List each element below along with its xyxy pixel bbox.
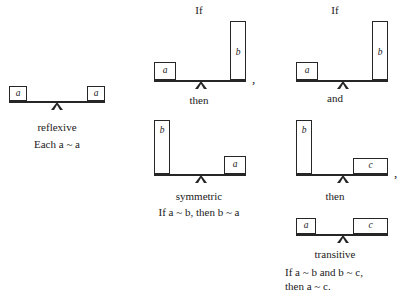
transitive-premise-2-scale: b c ,	[275, 112, 409, 180]
fulcrum-inner-icon	[340, 84, 346, 89]
weight-box-label: b	[155, 126, 169, 136]
fulcrum-inner-icon	[54, 105, 60, 110]
symmetric-panel: If a b , then b a	[140, 0, 270, 230]
transitive-and-label: and	[275, 92, 395, 105]
fulcrum-inner-icon	[340, 178, 346, 183]
transitive-statement-line-1: If a ~ b and b ~ c,	[285, 265, 409, 279]
reflexive-panel: a a reflexive Each a ~ a	[0, 80, 140, 170]
symmetric-conclusion-scale: b a	[140, 112, 270, 180]
fulcrum-inner-icon	[340, 238, 346, 243]
weight-box-right: c	[353, 158, 388, 174]
weight-box-right: c	[353, 218, 388, 234]
weight-box-label: a	[155, 66, 175, 76]
weight-box-left: b	[154, 120, 170, 174]
transitive-conclusion-scale: a c	[275, 208, 409, 244]
symmetric-name-label: symmetric	[140, 189, 258, 203]
weight-box-left: a	[154, 62, 176, 80]
weight-box-right: b	[372, 21, 388, 80]
reflexive-scale: a a	[0, 80, 120, 110]
fulcrum-inner-icon	[198, 84, 204, 89]
weight-box-label: b	[373, 48, 387, 58]
weight-box-label: c	[354, 161, 387, 171]
weight-box-label: b	[297, 126, 311, 136]
symmetric-premise-comma: ,	[252, 72, 255, 85]
weight-box-label: b	[231, 48, 245, 58]
reflexive-statement: Each a ~ a	[0, 137, 114, 151]
weight-box-right: b	[230, 21, 246, 80]
transitive-statement-line-2: then a ~ c.	[285, 279, 409, 293]
weight-box-label: a	[10, 89, 26, 99]
transitive-panel: If a b and b c ,	[275, 0, 409, 300]
transitive-premise-1-scale: a b	[275, 14, 409, 84]
fulcrum-inner-icon	[198, 178, 204, 183]
transitive-premise-2-comma: ,	[394, 166, 397, 179]
symmetric-then-label: then	[140, 94, 258, 107]
weight-box-right: a	[87, 86, 105, 101]
symmetric-premise-scale: a b ,	[140, 14, 270, 84]
weight-box-label: a	[297, 66, 317, 76]
transitive-name-label: transitive	[275, 247, 395, 261]
equivalence-relation-figure: a a reflexive Each a ~ a If a b , then	[0, 0, 409, 300]
weight-box-left: a	[296, 62, 318, 80]
weight-box-left: a	[296, 218, 316, 234]
weight-box-left: a	[9, 86, 27, 101]
reflexive-name-label: reflexive	[0, 120, 114, 134]
weight-box-right: a	[224, 156, 246, 174]
symmetric-statement: If a ~ b, then b ~ a	[134, 205, 264, 219]
transitive-then-label: then	[275, 190, 395, 203]
weight-box-label: a	[88, 89, 104, 99]
weight-box-label: c	[354, 221, 387, 231]
weight-box-label: a	[297, 221, 315, 231]
weight-box-label: a	[225, 160, 245, 170]
weight-box-left: b	[296, 120, 312, 174]
